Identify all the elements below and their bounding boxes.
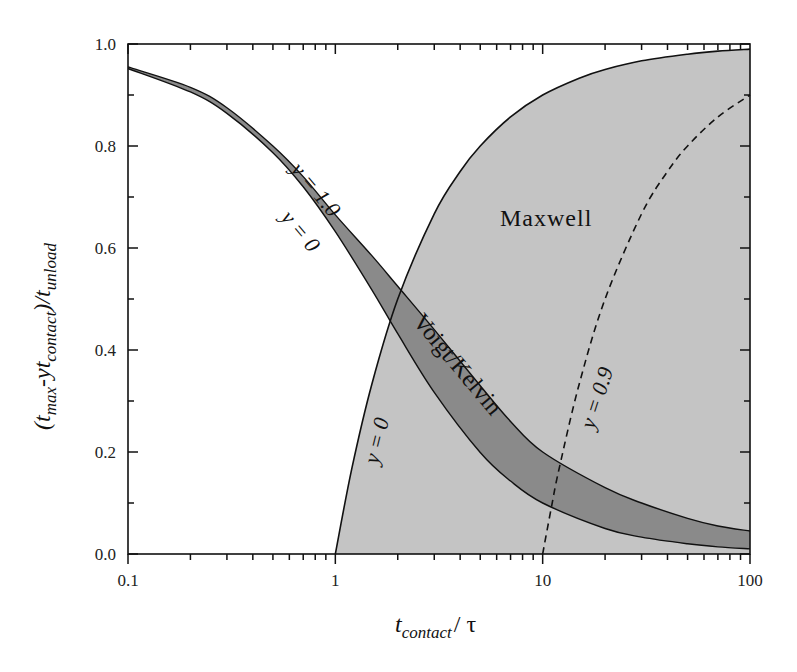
x-tick-label: 1: [331, 571, 340, 590]
y-tick-label: 0.8: [95, 137, 116, 156]
y-tick-label: 0.6: [95, 239, 116, 258]
x-tick-label: 0.1: [117, 571, 138, 590]
y-tick-label: 0.4: [95, 341, 117, 360]
y-tick-label: 0.0: [95, 545, 116, 564]
x-tick-label: 10: [534, 571, 551, 590]
y-tick-label: 1.0: [95, 35, 116, 54]
y-axis-title: (tmax-ytcontact)/tunload: [29, 243, 60, 430]
x-axis-title: tcontact/ τ: [395, 611, 476, 642]
x-tick-label: 100: [737, 571, 763, 590]
chart: 0.11101000.00.20.40.60.81.0 y = 1.0 y = …: [0, 0, 797, 672]
y-tick-label: 0.2: [95, 443, 116, 462]
maxwell-region-label: Maxwell: [500, 205, 592, 231]
vk-lower-label: y = 0: [275, 204, 325, 257]
